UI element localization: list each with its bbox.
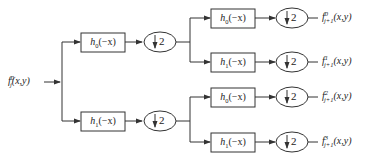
level2-filter-label-1: h1(−x) [211,57,255,67]
level2-filter-label-2: h0(−x) [211,92,255,102]
level1-filter-label-0: h0(−x) [81,37,125,47]
level2-downsample-factor-0: 2 [291,12,297,23]
output-label-3: f3j+1(x,y) [322,136,352,146]
level1-downsample-factor-0: 2 [159,36,165,47]
level2-filter-label-0: h0(−x) [211,13,255,23]
level2-filter-label-3: h1(−x) [211,137,255,147]
level2-downsample-factor-1: 2 [291,56,297,67]
level2-downsample-factor-3: 2 [291,136,297,147]
level1-downsample-factor-1: 2 [159,115,165,126]
level1-filter-label-1: h1(−x) [81,116,125,126]
output-label-2: f2j+1(x,y) [322,91,352,101]
filter-bank-diagram [0,0,371,167]
output-label-1: f1j+1(x,y) [322,56,352,66]
input-label: f0j(x,y) [8,76,30,86]
level2-downsample-factor-2: 2 [291,91,297,102]
output-label-0: f0j+1(x,y) [322,12,352,22]
